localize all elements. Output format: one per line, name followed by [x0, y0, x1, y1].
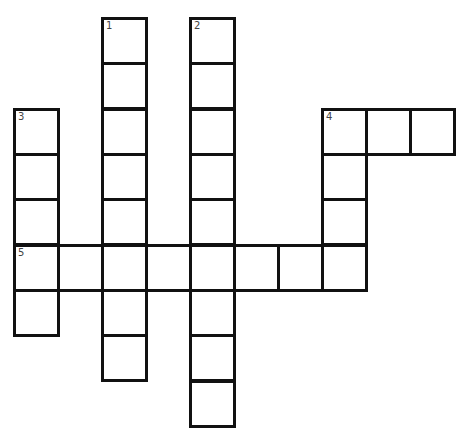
crossword-cell[interactable]: 3: [13, 108, 60, 156]
crossword-cell[interactable]: [13, 289, 60, 337]
crossword-cell[interactable]: 2: [189, 17, 236, 65]
crossword-cell[interactable]: [189, 62, 236, 110]
crossword-cell[interactable]: [101, 244, 148, 292]
crossword-cell[interactable]: [13, 153, 60, 201]
crossword-cell[interactable]: [13, 198, 60, 246]
crossword-cell[interactable]: [101, 198, 148, 246]
clue-number: 5: [18, 247, 24, 259]
crossword-cell[interactable]: [189, 334, 236, 382]
crossword-cell[interactable]: 1: [101, 17, 148, 65]
crossword-cell[interactable]: [101, 108, 148, 156]
crossword-cell[interactable]: [145, 244, 192, 292]
crossword-cell[interactable]: [101, 289, 148, 337]
crossword-cell[interactable]: [189, 244, 236, 292]
crossword-cell[interactable]: [233, 244, 280, 292]
clue-number: 2: [194, 20, 200, 32]
crossword-cell[interactable]: [321, 153, 368, 201]
crossword-cell[interactable]: [365, 108, 412, 156]
clue-number: 4: [326, 111, 332, 123]
crossword-cell[interactable]: [409, 108, 456, 156]
crossword-cell[interactable]: [101, 334, 148, 382]
clue-number: 3: [18, 111, 24, 123]
crossword-cell[interactable]: [101, 153, 148, 201]
crossword-grid: 12354: [0, 0, 462, 435]
crossword-cell[interactable]: 4: [321, 108, 368, 156]
crossword-cell[interactable]: 5: [13, 244, 60, 292]
clue-number: 1: [106, 20, 112, 32]
crossword-cell[interactable]: [321, 244, 368, 292]
crossword-cell[interactable]: [189, 108, 236, 156]
crossword-cell[interactable]: [189, 153, 236, 201]
crossword-cell[interactable]: [57, 244, 104, 292]
crossword-cell[interactable]: [189, 289, 236, 337]
crossword-cell[interactable]: [189, 198, 236, 246]
crossword-cell[interactable]: [101, 62, 148, 110]
crossword-cell[interactable]: [189, 380, 236, 428]
crossword-cell[interactable]: [277, 244, 324, 292]
crossword-cell[interactable]: [321, 198, 368, 246]
